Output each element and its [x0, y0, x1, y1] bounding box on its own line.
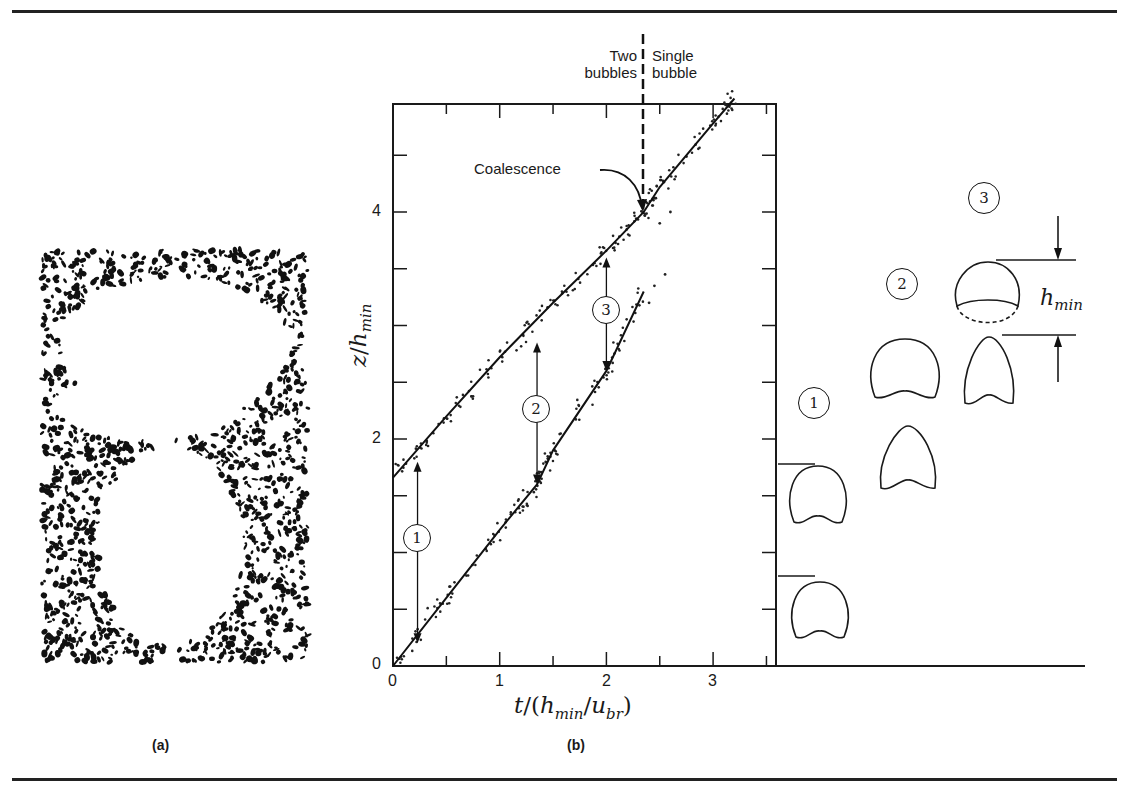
panel-label-a: (a)	[152, 737, 169, 753]
x-title-t: t	[514, 692, 523, 718]
region-label-single-bubble: Single bubble	[652, 47, 697, 81]
ytick-2: 2	[372, 429, 381, 447]
x-axis-title: t/(hmin/ubr)	[514, 692, 632, 723]
two-bubbles-line2: bubbles	[584, 64, 637, 81]
schematic-hmin-label: hmin	[1040, 285, 1083, 314]
y-title-sep: /	[345, 347, 371, 355]
hmin-min: min	[1054, 296, 1083, 314]
fit-lines	[393, 99, 734, 667]
separation-arrows	[414, 257, 611, 643]
y-title-h: h	[345, 332, 371, 347]
coalescence-annotation: Coalescence	[474, 160, 561, 177]
x-title-close: )	[623, 692, 632, 718]
xtick-0: 0	[388, 672, 397, 690]
plot-marker-1: 1	[403, 524, 431, 552]
coalescence-arrow	[600, 170, 642, 208]
region-label-two-bubbles: Two bubbles	[583, 47, 637, 81]
schematic-stage-2: 2	[886, 268, 918, 300]
single-bubble-line1: Single	[652, 47, 694, 64]
x-title-sep: /(	[523, 692, 540, 718]
x-title-br: br	[606, 705, 623, 723]
xtick-2: 2	[602, 672, 611, 690]
bubble-photo	[38, 246, 312, 666]
x-title-min: min	[555, 705, 584, 723]
xtick-3: 3	[708, 672, 717, 690]
xtick-1: 1	[495, 672, 504, 690]
panel-label-b: (b)	[567, 737, 585, 753]
schematic-stage-1: 1	[798, 387, 830, 419]
y-title-min: min	[357, 304, 375, 333]
schematic-stage-3: 3	[968, 182, 1000, 214]
y-axis-title: z/hmin	[345, 275, 376, 395]
plot-frame	[393, 104, 776, 666]
ytick-4: 4	[372, 202, 381, 220]
data-points	[394, 90, 737, 664]
two-bubbles-line1: Two	[609, 47, 637, 64]
single-bubble-line2: bubble	[652, 64, 697, 81]
axis-ticks	[393, 104, 776, 666]
figure-canvas	[0, 0, 1127, 805]
ytick-0: 0	[372, 655, 381, 673]
bubble-schematic	[778, 216, 1076, 638]
y-title-z: z	[345, 355, 371, 367]
x-title-u: u	[591, 692, 606, 718]
plot-marker-3: 3	[592, 296, 620, 324]
plot-marker-2: 2	[522, 395, 550, 423]
hmin-h: h	[1040, 285, 1054, 310]
x-title-h: h	[540, 692, 555, 718]
